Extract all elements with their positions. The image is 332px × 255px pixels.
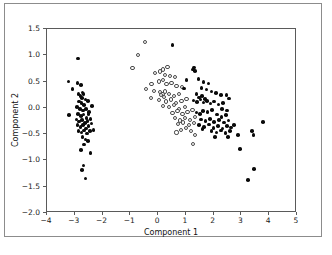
data-point bbox=[90, 122, 94, 126]
data-point bbox=[171, 43, 175, 47]
data-point bbox=[179, 128, 183, 132]
data-point bbox=[213, 135, 217, 139]
data-point bbox=[184, 126, 188, 130]
data-point bbox=[176, 122, 180, 126]
data-point bbox=[201, 109, 205, 113]
data-point bbox=[89, 151, 93, 155]
data-point bbox=[205, 88, 209, 92]
data-point bbox=[212, 120, 216, 124]
x-tick-label: 0 bbox=[146, 216, 168, 225]
data-point bbox=[173, 116, 177, 120]
data-point bbox=[174, 84, 178, 88]
data-point bbox=[228, 129, 232, 133]
data-point bbox=[130, 66, 134, 70]
x-tick-mark bbox=[129, 212, 130, 215]
data-point bbox=[200, 86, 204, 90]
data-point bbox=[246, 178, 250, 182]
data-point bbox=[189, 129, 193, 133]
data-point bbox=[170, 111, 174, 115]
x-tick-label: 2 bbox=[202, 216, 224, 225]
data-point bbox=[221, 101, 225, 105]
data-point bbox=[206, 110, 210, 114]
data-point bbox=[158, 69, 162, 73]
data-point bbox=[201, 127, 205, 131]
data-point bbox=[143, 40, 147, 44]
y-tick-mark bbox=[43, 212, 46, 213]
data-point bbox=[169, 81, 173, 85]
data-point bbox=[168, 74, 172, 78]
data-point bbox=[167, 92, 171, 96]
data-point bbox=[236, 133, 240, 137]
data-point bbox=[212, 100, 216, 104]
x-tick-label: 4 bbox=[257, 216, 279, 225]
data-point bbox=[210, 90, 214, 94]
data-point bbox=[193, 115, 197, 119]
data-point bbox=[202, 80, 206, 84]
data-point bbox=[90, 104, 94, 108]
x-tick-mark bbox=[74, 212, 75, 215]
x-tick-label: 3 bbox=[229, 216, 251, 225]
data-point bbox=[86, 99, 90, 103]
data-point bbox=[149, 96, 153, 100]
data-point bbox=[87, 124, 91, 128]
data-point bbox=[71, 87, 75, 91]
data-point bbox=[232, 123, 236, 127]
x-tick-label: 1 bbox=[174, 216, 196, 225]
data-point bbox=[199, 118, 203, 122]
data-point bbox=[224, 113, 228, 117]
data-point bbox=[173, 75, 177, 79]
y-tick-mark bbox=[43, 133, 46, 134]
scatter-points-layer bbox=[47, 29, 295, 211]
data-point bbox=[167, 105, 171, 109]
data-point bbox=[215, 131, 219, 135]
data-point bbox=[179, 99, 183, 103]
data-point bbox=[197, 77, 201, 81]
y-tick-mark bbox=[43, 107, 46, 108]
data-point bbox=[220, 107, 224, 111]
data-point bbox=[184, 97, 188, 101]
data-point bbox=[172, 103, 176, 107]
data-point bbox=[153, 71, 157, 75]
x-tick-label: −2 bbox=[91, 216, 113, 225]
data-point bbox=[226, 135, 230, 139]
data-point bbox=[152, 89, 156, 93]
x-tick-mark bbox=[102, 212, 103, 215]
data-point bbox=[181, 120, 185, 124]
data-point bbox=[183, 105, 187, 109]
plot-axes-area bbox=[46, 28, 296, 212]
data-point bbox=[192, 121, 196, 125]
data-point bbox=[169, 97, 173, 101]
data-point bbox=[214, 91, 218, 95]
y-axis-label: Component 2 bbox=[11, 93, 20, 147]
data-point bbox=[175, 109, 179, 113]
data-point bbox=[157, 79, 161, 83]
data-point bbox=[198, 112, 202, 116]
data-point bbox=[185, 78, 189, 82]
data-point bbox=[87, 112, 91, 116]
data-point bbox=[227, 119, 231, 123]
data-point bbox=[82, 164, 86, 168]
data-point bbox=[190, 108, 194, 112]
data-point bbox=[204, 119, 208, 123]
data-point bbox=[88, 129, 92, 133]
data-point bbox=[164, 82, 168, 86]
data-point bbox=[193, 69, 197, 73]
data-point bbox=[250, 129, 254, 133]
data-point bbox=[157, 98, 161, 102]
data-point bbox=[177, 92, 181, 96]
y-tick-mark bbox=[43, 186, 46, 187]
data-point bbox=[162, 95, 166, 99]
data-point bbox=[79, 148, 83, 152]
data-point bbox=[182, 87, 186, 91]
data-point bbox=[144, 87, 148, 91]
x-tick-label: 5 bbox=[285, 216, 307, 225]
data-point bbox=[217, 103, 221, 107]
data-point bbox=[261, 120, 265, 124]
data-point bbox=[183, 116, 187, 120]
y-tick-mark bbox=[43, 54, 46, 55]
x-tick-mark bbox=[185, 212, 186, 215]
data-point bbox=[86, 139, 90, 143]
data-point bbox=[225, 109, 229, 113]
data-point bbox=[161, 104, 165, 108]
data-point bbox=[191, 142, 195, 146]
